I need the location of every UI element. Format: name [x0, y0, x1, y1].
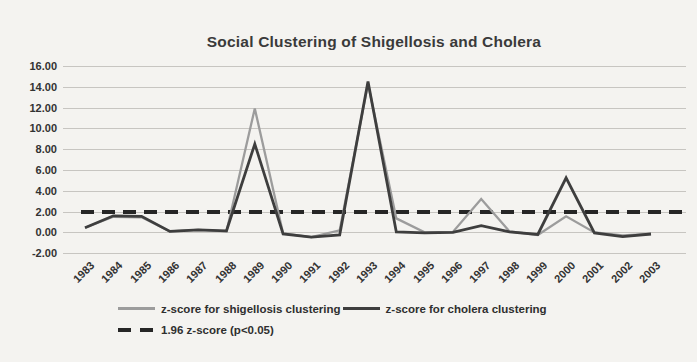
threshold-line-swatch: [118, 328, 155, 332]
legend-label-shigellosis: z-score for shigellosis clustering: [161, 303, 341, 315]
series-line-shigellosis: [85, 84, 651, 237]
chart-figure: Social Clustering of Shigellosis and Cho…: [0, 0, 697, 362]
legend-label-threshold: 1.96 z-score (p<0.05): [161, 324, 274, 336]
legend-label-cholera: z-score for cholera clustering: [386, 303, 547, 315]
legend: z-score for shigellosis clustering z-sco…: [118, 298, 547, 340]
legend-row-series: z-score for shigellosis clustering z-sco…: [118, 298, 547, 319]
legend-row-threshold: 1.96 z-score (p<0.05): [118, 319, 547, 340]
cholera-line-swatch: [343, 307, 380, 310]
shigellosis-line-swatch: [118, 307, 155, 310]
